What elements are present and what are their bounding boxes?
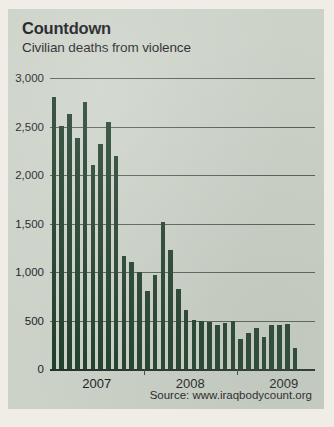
bar [238, 339, 243, 369]
bar [215, 325, 220, 369]
bar-slot [136, 78, 144, 369]
bar [106, 122, 111, 369]
bar [269, 325, 274, 369]
bar [91, 165, 96, 369]
page-title: Countdown [22, 19, 111, 38]
bar [153, 275, 158, 369]
bar-slot [58, 78, 66, 369]
bar [254, 328, 259, 369]
bar-slot [229, 78, 237, 369]
bar [184, 310, 189, 369]
bar [277, 325, 282, 369]
plot-area: 05001,0001,5002,0002,5003,000 2007200820… [50, 78, 315, 369]
bar [52, 97, 57, 369]
bar [129, 262, 134, 369]
bar-slot [221, 78, 229, 369]
x-axis-tick [144, 369, 145, 375]
bar-slot [237, 78, 245, 369]
y-axis-tick-label: 1,000 [15, 266, 44, 278]
bar [293, 348, 298, 369]
bar-slot [268, 78, 276, 369]
bar [122, 256, 127, 369]
bar-slot [66, 78, 74, 369]
figure: Countdown Civilian deaths from violence … [0, 0, 334, 427]
bar-slot [190, 78, 198, 369]
bar-series [50, 78, 315, 369]
bar [262, 337, 267, 369]
bar-slot [182, 78, 190, 369]
chart-subtitle: Civilian deaths from violence [22, 40, 191, 55]
bar-slot [104, 78, 112, 369]
bar [161, 222, 166, 369]
x-axis-tick-label: 2007 [82, 376, 111, 391]
bar [67, 114, 72, 369]
bar [199, 321, 204, 370]
bar-slot [112, 78, 120, 369]
bar-slot [252, 78, 260, 369]
y-axis-tick-label: 2,000 [15, 169, 44, 181]
bar-slot [143, 78, 151, 369]
bar-slot [283, 78, 291, 369]
bar [59, 126, 64, 369]
bar [246, 333, 251, 369]
bar [75, 138, 80, 369]
bar-slot [175, 78, 183, 369]
bar [98, 144, 103, 369]
bar [83, 102, 88, 369]
bar-slot [206, 78, 214, 369]
bar-slot [73, 78, 81, 369]
bar-slot [81, 78, 89, 369]
y-axis-tick-label: 500 [25, 315, 44, 327]
source-credit: Source: www.iraqbodycount.org [150, 389, 312, 401]
bar-slot [291, 78, 299, 369]
bar-slot [299, 78, 307, 369]
bar-slot [128, 78, 136, 369]
y-axis-tick-label: 2,500 [15, 121, 44, 133]
bar-slot [213, 78, 221, 369]
bar [207, 322, 212, 369]
bar [145, 291, 150, 369]
y-axis-tick-label: 1,500 [15, 218, 44, 230]
bar-slot [276, 78, 284, 369]
bar-slot [50, 78, 58, 369]
bar [137, 272, 142, 369]
bar [285, 324, 290, 369]
y-axis-tick-label: 3,000 [15, 72, 44, 84]
bar [231, 321, 236, 369]
bar-slot [260, 78, 268, 369]
gridline [50, 369, 315, 371]
bar [223, 323, 228, 369]
x-axis-tick [237, 369, 238, 375]
bar [176, 289, 181, 369]
y-axis-tick-label: 0 [38, 363, 44, 375]
chart-panel: Countdown Civilian deaths from violence … [8, 9, 324, 409]
bar-slot [307, 78, 315, 369]
bar [192, 320, 197, 369]
bar-slot [97, 78, 105, 369]
bar [168, 250, 173, 369]
bar-slot [198, 78, 206, 369]
bar-slot [120, 78, 128, 369]
bar-slot [89, 78, 97, 369]
bar-slot [159, 78, 167, 369]
bar-slot [245, 78, 253, 369]
bar [114, 156, 119, 369]
bar-slot [167, 78, 175, 369]
bar-slot [151, 78, 159, 369]
